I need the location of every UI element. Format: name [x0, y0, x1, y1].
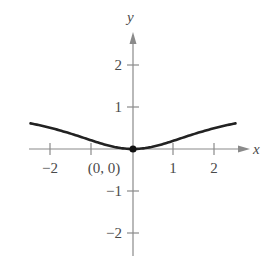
- y-tick-label-neg2: −2: [106, 225, 122, 241]
- y-axis-label: y: [125, 9, 134, 25]
- x-axis-label: x: [252, 141, 260, 157]
- x-tick-label-1: 1: [169, 160, 177, 176]
- x-tick-label-2: 2: [210, 160, 218, 176]
- y-tick-label-2: 2: [115, 57, 123, 73]
- y-axis-arrow-icon: [130, 32, 137, 44]
- origin-point: [129, 145, 136, 152]
- y-tick-label-neg1: −1: [106, 183, 122, 199]
- function-graph: y x −2 (0, 0) 1 2 2 1 −1 −2: [0, 0, 262, 258]
- point-label: (0, 0): [88, 160, 121, 177]
- x-axis-arrow-icon: [238, 146, 250, 153]
- x-tick-label-neg2: −2: [42, 160, 58, 176]
- y-tick-label-1: 1: [115, 99, 123, 115]
